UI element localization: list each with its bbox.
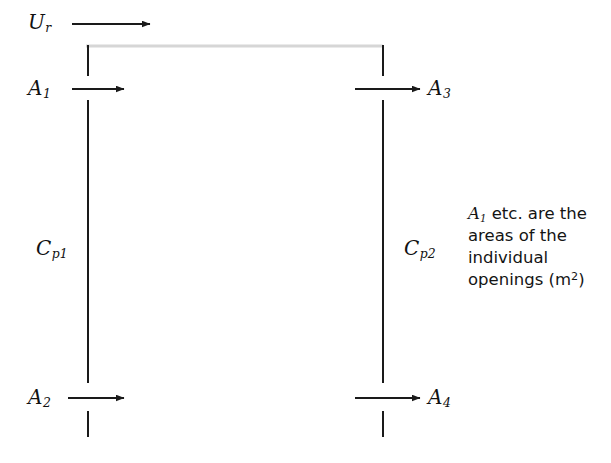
caption-line-1: etc. are the: [486, 204, 586, 223]
label-opening-a4: A4: [428, 387, 451, 410]
figure-canvas: Ur A1 A3 A2 A4 Cp1 Cp2 A1 etc. are the a…: [0, 0, 611, 463]
caption-line-4-pre: openings (m: [468, 270, 571, 289]
caption-line-4-post: ): [578, 270, 584, 289]
label-pressure-coefficient-cp1: Cp1: [36, 238, 68, 261]
caption-line-2: areas of the: [468, 226, 567, 245]
caption-symbol: A1: [468, 204, 486, 223]
figure-caption-note: A1 etc. are the areas of the individual …: [468, 203, 603, 291]
label-wind-speed: Ur: [28, 12, 51, 35]
label-opening-a3: A3: [428, 78, 451, 101]
label-pressure-coefficient-cp2: Cp2: [404, 238, 436, 261]
label-opening-a2: A2: [28, 387, 51, 410]
label-opening-a1: A1: [28, 78, 51, 101]
caption-line-3: individual: [468, 248, 548, 267]
